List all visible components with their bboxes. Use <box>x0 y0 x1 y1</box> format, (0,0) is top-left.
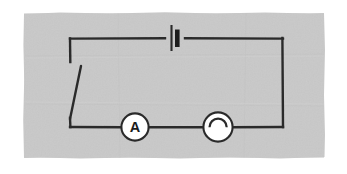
electric-bell-symbol <box>203 112 233 141</box>
circuit-wires <box>70 38 283 127</box>
circuit-diagram-screenshot: A <box>0 0 347 174</box>
switch-blade <box>70 66 81 119</box>
wire-right-vertical <box>282 38 283 127</box>
battery-short-plate <box>175 30 180 48</box>
open-switch-symbol <box>70 66 81 119</box>
battery-symbol <box>172 25 180 51</box>
ammeter-label: A <box>130 119 141 135</box>
ammeter-symbol: A <box>121 113 148 140</box>
circuit-drawing: A <box>0 0 347 174</box>
